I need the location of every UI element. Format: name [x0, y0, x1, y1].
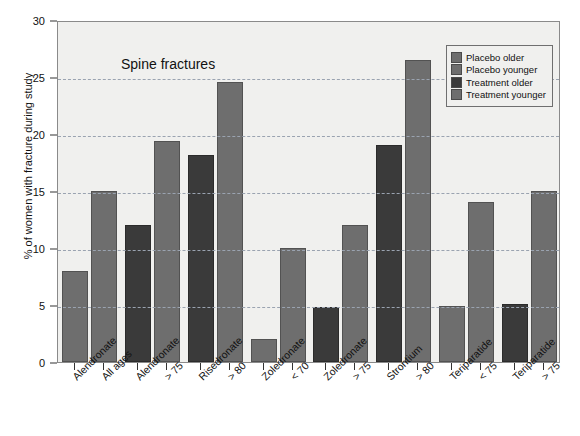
y-tick-mark — [50, 21, 57, 22]
bar — [405, 60, 431, 362]
y-tick-mark — [50, 192, 57, 193]
legend-item: Placebo younger — [451, 64, 546, 75]
legend-label: Placebo older — [466, 52, 524, 63]
legend-item: Placebo older — [451, 52, 546, 63]
bar — [188, 155, 214, 362]
chart-legend: Placebo olderPlacebo youngerTreatment ol… — [446, 45, 553, 107]
bar — [439, 306, 465, 362]
y-tick-label: 5 — [39, 300, 45, 312]
y-tick-mark — [50, 363, 57, 364]
y-tick-label: 15 — [33, 186, 45, 198]
legend-swatch-icon — [451, 77, 462, 88]
legend-item: Treatment older — [451, 77, 546, 88]
y-tick-label: 25 — [33, 72, 45, 84]
bar — [154, 141, 180, 362]
legend-swatch-icon — [451, 64, 462, 75]
plot-title: Spine fractures — [121, 56, 215, 72]
gridline — [58, 193, 559, 194]
legend-label: Placebo younger — [466, 64, 537, 75]
bar — [125, 225, 151, 362]
legend-label: Treatment older — [466, 77, 533, 88]
legend-swatch-icon — [451, 52, 462, 63]
gridline — [58, 307, 559, 308]
bar — [62, 271, 88, 362]
y-axis: % of women with fracture during study 05… — [0, 0, 57, 364]
y-tick-mark — [50, 249, 57, 250]
y-tick-label: 0 — [39, 357, 45, 369]
legend-item: Treatment younger — [451, 89, 546, 100]
legend-swatch-icon — [451, 89, 462, 100]
y-tick-label: 30 — [33, 15, 45, 27]
gridline — [58, 250, 559, 251]
bar — [531, 191, 557, 362]
y-tick-mark — [50, 306, 57, 307]
bar — [376, 145, 402, 362]
y-tick-label: 20 — [33, 129, 45, 141]
y-tick-mark — [50, 135, 57, 136]
bar — [502, 304, 528, 362]
legend-label: Treatment younger — [466, 89, 546, 100]
chart-container: % of women with fracture during study 05… — [0, 0, 580, 436]
gridline — [58, 136, 559, 137]
bar — [217, 82, 243, 362]
y-tick-label: 10 — [33, 243, 45, 255]
bar — [313, 307, 339, 362]
y-tick-mark — [50, 78, 57, 79]
x-axis: AlendronateAll agesAlendronate> 75Risedr… — [57, 363, 560, 436]
